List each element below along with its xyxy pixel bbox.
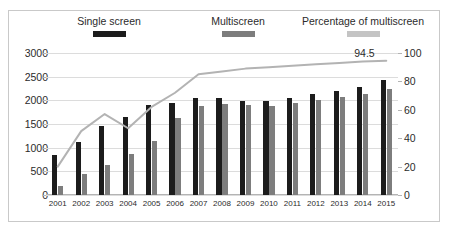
y-axis-right-tick: 80	[404, 76, 438, 86]
bar-multiscreen	[175, 118, 180, 195]
legend-swatch-percentage-of-multiscreen	[347, 31, 380, 37]
gridline	[46, 100, 398, 101]
x-axis-label: 2012	[304, 199, 327, 208]
x-axis-label: 2002	[69, 199, 92, 208]
x-axis-label: 2001	[46, 199, 69, 208]
y-axis-right-tickmark	[398, 167, 402, 168]
bar-multiscreen	[82, 174, 87, 195]
y-axis-right-tickmark	[398, 53, 402, 54]
x-axis-label: 2011	[281, 199, 304, 208]
legend-swatch-multiscreen	[222, 31, 255, 37]
legend-item-single-screen: Single screen	[44, 15, 174, 37]
x-axis-label: 2015	[375, 199, 398, 208]
bar-single-screen	[381, 80, 386, 195]
gridline	[46, 77, 398, 78]
x-axis-label: 2005	[140, 199, 163, 208]
data-label-percentage: 94.5	[354, 47, 374, 59]
bar-multiscreen	[152, 141, 157, 195]
x-axis-label: 2004	[116, 199, 139, 208]
x-axis-label: 2007	[187, 199, 210, 208]
x-axis-label: 2009	[234, 199, 257, 208]
plot-area	[46, 53, 398, 195]
bar-multiscreen	[363, 94, 368, 195]
legend-item-percentage-of-multiscreen: Percentage of multiscreen	[283, 15, 443, 37]
y-axis-right-tickmark	[398, 138, 402, 139]
bar-single-screen	[216, 98, 221, 196]
bar-single-screen	[123, 117, 128, 195]
bar-single-screen	[193, 98, 198, 195]
legend-label-single-screen: Single screen	[44, 15, 174, 28]
bar-multiscreen	[269, 106, 274, 195]
y-axis-right-tick: 0	[404, 190, 438, 200]
y-axis-right-tick: 20	[404, 162, 438, 172]
y-axis-right-tick: 40	[404, 133, 438, 143]
y-axis-right-tick: 60	[404, 105, 438, 115]
bar-multiscreen	[387, 89, 392, 196]
y-axis-right-tickmark	[398, 81, 402, 82]
legend-label-multiscreen: Multiscreen	[183, 15, 293, 28]
gridline	[46, 53, 398, 54]
y-axis-right-tickmark	[398, 195, 402, 196]
x-axis-label: 2006	[163, 199, 186, 208]
bar-single-screen	[357, 87, 362, 195]
bar-multiscreen	[293, 103, 298, 195]
bar-single-screen	[287, 98, 292, 195]
chart-legend: Single screen Multiscreen Percentage of …	[8, 12, 440, 46]
gridline	[46, 195, 398, 196]
bar-multiscreen	[222, 104, 227, 195]
legend-swatch-single-screen	[93, 31, 126, 37]
y-axis-right-tick: 100	[404, 48, 438, 58]
bar-multiscreen	[129, 154, 134, 195]
bar-single-screen	[310, 94, 315, 195]
bar-single-screen	[146, 105, 151, 195]
y-axis-right-tickmark	[398, 110, 402, 111]
chart-screenshot: Single screen Multiscreen Percentage of …	[0, 0, 450, 234]
bar-multiscreen	[316, 100, 321, 195]
bar-single-screen	[263, 101, 268, 195]
bar-single-screen	[99, 126, 104, 195]
bar-multiscreen	[199, 106, 204, 195]
bar-single-screen	[169, 103, 174, 195]
bar-multiscreen	[246, 105, 251, 195]
bar-multiscreen	[58, 186, 63, 195]
bar-single-screen	[240, 101, 245, 195]
bar-single-screen	[334, 91, 339, 195]
bar-multiscreen	[340, 97, 345, 195]
legend-label-percentage-of-multiscreen: Percentage of multiscreen	[283, 15, 443, 28]
legend-item-multiscreen: Multiscreen	[183, 15, 293, 37]
x-axis-label: 2014	[351, 199, 374, 208]
bar-single-screen	[76, 142, 81, 195]
x-axis-label: 2013	[328, 199, 351, 208]
x-axis-label: 2008	[210, 199, 233, 208]
x-axis-label: 2003	[93, 199, 116, 208]
x-axis-label: 2010	[257, 199, 280, 208]
bar-single-screen	[52, 155, 57, 195]
bar-multiscreen	[105, 165, 110, 195]
